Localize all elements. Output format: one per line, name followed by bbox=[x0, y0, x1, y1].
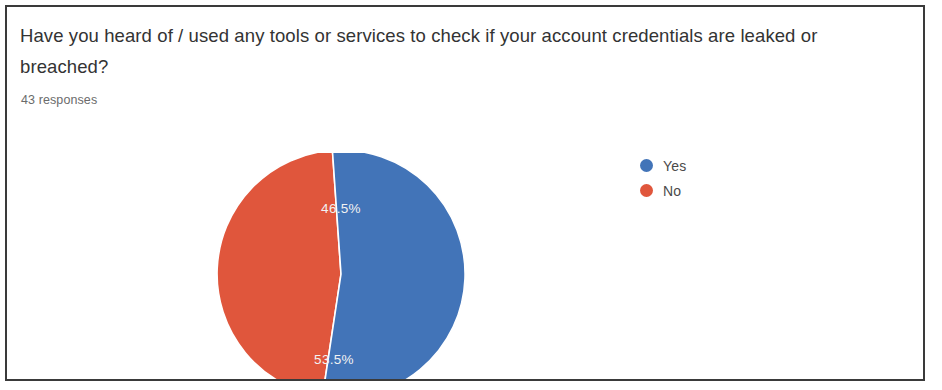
page-title: Have you heard of / used any tools or se… bbox=[20, 20, 870, 82]
pie-label-yes: 53.5% bbox=[314, 352, 354, 367]
legend-label-no: No bbox=[663, 184, 681, 198]
pie-svg: 46.5% 53.5% bbox=[210, 153, 472, 381]
legend-swatch-no-icon bbox=[640, 184, 653, 197]
chart-legend: Yes No bbox=[640, 153, 686, 203]
response-count-label: 43 responses bbox=[21, 93, 97, 107]
pie-chart: 46.5% 53.5% Yes No bbox=[7, 117, 925, 381]
legend-label-yes: Yes bbox=[663, 159, 686, 173]
scan-margin-bottom bbox=[0, 385, 942, 390]
pie-label-no: 46.5% bbox=[321, 201, 361, 216]
legend-item-no[interactable]: No bbox=[640, 178, 686, 203]
survey-result-card: Have you heard of / used any tools or se… bbox=[5, 5, 925, 381]
pie-chart-graphic: 46.5% 53.5% bbox=[210, 153, 472, 381]
scan-margin-top bbox=[0, 0, 942, 5]
pie-slice-no[interactable] bbox=[217, 153, 341, 381]
pie-slice-yes[interactable] bbox=[323, 153, 466, 381]
legend-item-yes[interactable]: Yes bbox=[640, 153, 686, 178]
legend-swatch-yes-icon bbox=[640, 159, 653, 172]
